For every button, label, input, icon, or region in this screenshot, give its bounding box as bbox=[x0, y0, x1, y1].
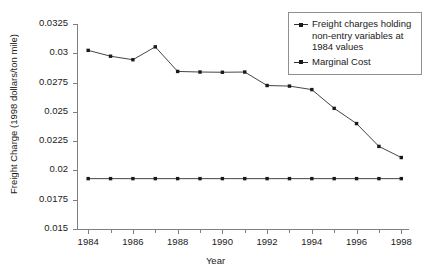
y-axis-tick: 0.015 bbox=[73, 229, 77, 230]
x-axis-minor-tick bbox=[111, 230, 112, 233]
data-point-marker bbox=[109, 55, 112, 58]
x-axis-tick bbox=[178, 230, 179, 234]
x-axis-tick-label: 1984 bbox=[78, 236, 99, 247]
data-point-marker bbox=[198, 70, 201, 73]
x-axis-tick-label: 1986 bbox=[122, 236, 143, 247]
data-point-marker bbox=[221, 177, 224, 180]
x-axis-tick-label: 1992 bbox=[257, 236, 278, 247]
y-axis-tick-label: 0.0225 bbox=[39, 134, 68, 145]
y-axis-tick-label: 0.0275 bbox=[39, 76, 68, 87]
data-point-marker bbox=[109, 177, 112, 180]
x-axis-tick bbox=[401, 230, 402, 234]
legend-item-marginal-cost: Marginal Cost bbox=[293, 56, 417, 69]
data-point-marker bbox=[86, 49, 89, 52]
y-axis-title: Freight Charge (1998 dollars/ton mile) bbox=[6, 14, 20, 214]
x-axis-tick-label: 1994 bbox=[301, 236, 322, 247]
legend-box: Freight charges holding non-entry variab… bbox=[288, 12, 422, 75]
y-axis-tick-label: 0.03 bbox=[50, 46, 69, 57]
data-point-marker bbox=[243, 177, 246, 180]
data-point-marker bbox=[377, 177, 380, 180]
legend-item-label: Freight charges holding non-entry variab… bbox=[312, 18, 417, 53]
x-axis-title: Year bbox=[0, 255, 431, 266]
x-axis-minor-tick bbox=[379, 230, 380, 233]
x-axis-tick-label: 1988 bbox=[167, 236, 188, 247]
x-axis-line bbox=[77, 229, 409, 230]
data-point-marker bbox=[400, 177, 403, 180]
x-axis-tick-label: 1996 bbox=[346, 236, 367, 247]
y-axis-tick-label: 0.025 bbox=[44, 105, 68, 116]
x-axis-tick bbox=[357, 230, 358, 234]
data-point-marker bbox=[243, 70, 246, 73]
data-point-marker bbox=[176, 70, 179, 73]
data-point-marker bbox=[265, 84, 268, 87]
data-point-marker bbox=[154, 177, 157, 180]
data-point-marker bbox=[198, 177, 201, 180]
legend-item-freight-charges: Freight charges holding non-entry variab… bbox=[293, 18, 417, 53]
x-axis-minor-tick bbox=[200, 230, 201, 233]
legend-line-marker-icon bbox=[293, 57, 309, 69]
x-axis-tick bbox=[88, 230, 89, 234]
data-point-marker bbox=[176, 177, 179, 180]
data-point-marker bbox=[355, 177, 358, 180]
chart-page: Freight Charge (1998 dollars/ton mile) Y… bbox=[0, 0, 431, 278]
data-point-marker bbox=[333, 177, 336, 180]
data-point-marker bbox=[265, 177, 268, 180]
legend-item-label: Marginal Cost bbox=[312, 56, 371, 68]
data-point-marker bbox=[310, 88, 313, 91]
x-axis-minor-tick bbox=[334, 230, 335, 233]
data-point-marker bbox=[400, 156, 403, 159]
x-axis-minor-tick bbox=[289, 230, 290, 233]
y-axis-tick-label: 0.0325 bbox=[39, 17, 68, 28]
data-point-marker bbox=[355, 122, 358, 125]
x-axis-tick bbox=[267, 230, 268, 234]
x-axis-minor-tick bbox=[155, 230, 156, 233]
x-axis-tick bbox=[222, 230, 223, 234]
x-axis-tick bbox=[312, 230, 313, 234]
y-axis-tick-label: 0.02 bbox=[50, 163, 69, 174]
data-point-marker bbox=[288, 177, 291, 180]
x-axis-tick-label: 1998 bbox=[391, 236, 412, 247]
x-axis-tick-label: 1990 bbox=[212, 236, 233, 247]
data-point-marker bbox=[310, 177, 313, 180]
data-point-marker bbox=[333, 107, 336, 110]
y-axis-tick-label: 0.015 bbox=[44, 222, 68, 233]
data-point-marker bbox=[86, 177, 89, 180]
data-point-marker bbox=[131, 177, 134, 180]
data-point-marker bbox=[154, 45, 157, 48]
y-axis-tick-label: 0.0175 bbox=[39, 193, 68, 204]
x-axis-tick bbox=[133, 230, 134, 234]
data-point-marker bbox=[131, 58, 134, 61]
data-point-marker bbox=[377, 145, 380, 148]
x-axis-minor-tick bbox=[245, 230, 246, 233]
data-point-marker bbox=[221, 71, 224, 74]
data-point-marker bbox=[288, 84, 291, 87]
legend-line-marker-icon bbox=[293, 19, 309, 31]
